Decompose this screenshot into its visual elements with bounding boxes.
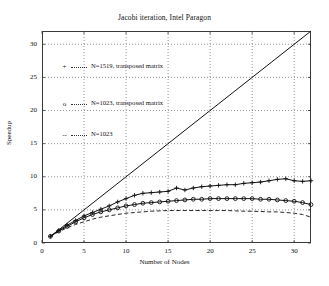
y-tick-label-2: 10 — [11, 172, 37, 180]
data-series-layer — [48, 31, 313, 239]
x-tick-label-3: 15 — [155, 247, 181, 255]
x-tick-label-1: 5 — [71, 247, 97, 255]
legend-marker-icon: + — [60, 63, 69, 72]
x-tick-label-5: 25 — [239, 247, 265, 255]
series-line-3 — [50, 211, 311, 237]
y-tick-label-1: 5 — [11, 205, 37, 213]
legend-label: N=1023 — [91, 130, 113, 137]
x-tick-label-0: 0 — [29, 247, 55, 255]
y-tick-label-4: 20 — [11, 106, 37, 114]
chart-figure: Jacobi iteration, Intel Paragon 05101520… — [0, 0, 329, 286]
legend-label: N=1023, transposed matrix — [91, 99, 163, 106]
legend-marker-icon: o — [60, 100, 69, 109]
series-line-2 — [50, 199, 311, 237]
legend-label: N=1519, transposed matrix — [91, 62, 163, 69]
y-tick-label-3: 15 — [11, 139, 37, 147]
y-axis-label: Speedup — [5, 103, 13, 163]
x-tick-label-2: 10 — [113, 247, 139, 255]
legend-line-sample — [71, 104, 87, 106]
x-axis-label: Number of Nodes — [0, 258, 329, 266]
y-tick-label-6: 30 — [11, 40, 37, 48]
x-tick-label-6: 30 — [281, 247, 307, 255]
legend-line-sample — [71, 135, 87, 137]
x-tick-label-4: 20 — [197, 247, 223, 255]
y-tick-label-5: 25 — [11, 73, 37, 81]
series-line-0 — [50, 31, 311, 236]
legend-line-sample — [71, 67, 87, 69]
y-tick-label-0: 0 — [11, 239, 37, 247]
legend-marker-icon: -- — [60, 131, 69, 140]
plot-canvas — [0, 0, 329, 286]
series-line-1 — [50, 179, 311, 237]
